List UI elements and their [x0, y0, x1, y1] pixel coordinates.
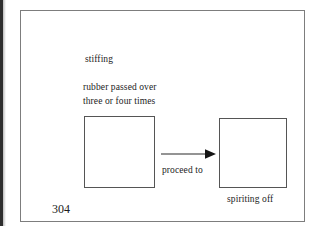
connector-label-proceed-to: proceed to: [162, 164, 203, 176]
source-box: [84, 116, 155, 188]
page-canvas: stiffing rubber passed over three or fou…: [0, 0, 320, 234]
target-box: [219, 118, 287, 188]
target-box-caption: spiriting off: [227, 193, 273, 205]
page-number: 304: [52, 202, 70, 216]
proceed-arrow-icon: [159, 145, 217, 163]
annotation-process-line-1: rubber passed over: [83, 81, 157, 93]
figure-frame: stiffing rubber passed over three or fou…: [20, 10, 305, 222]
arrow-head: [205, 149, 216, 159]
scan-edge-gradient: [3, 0, 6, 226]
annotation-process-line-2: three or four times: [83, 95, 155, 107]
annotation-stiffing: stiffing: [85, 53, 113, 65]
